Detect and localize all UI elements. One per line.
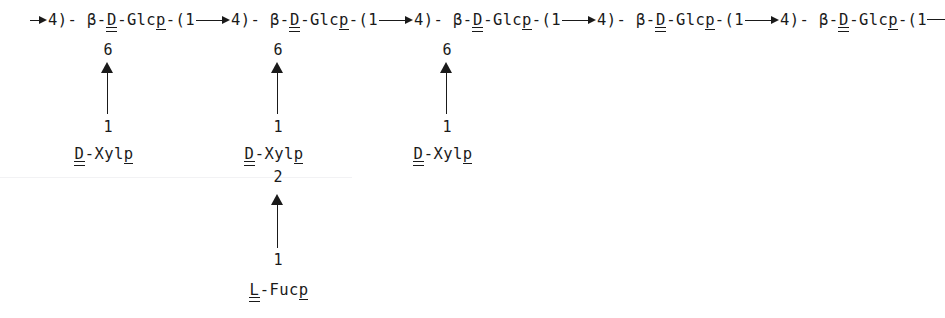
l-config-prefix: L [249,283,260,299]
ring-form-p: p [522,13,532,29]
sep: - [85,145,95,163]
branch-3-residue: D-Xylp [413,147,472,163]
ring-form-p: p [294,147,304,163]
sugar-name: Xyl [94,145,123,163]
sep: - [617,11,627,29]
d-config-prefix: D [655,13,666,29]
branch-2-sub-residue: L-Fucp [249,283,308,299]
backbone-unit-2: β-D-Glcp-(14)- [270,11,443,29]
sep: - [260,281,270,299]
d-config-prefix: D [106,13,117,29]
linkage-open: -(1 [166,11,195,29]
sugar-name: Glc [493,11,522,29]
branch-2-sub-anomeric-carbon: 1 [268,253,288,268]
backbone-unit-1: β-D-Glcp-(14)- [87,11,260,29]
d-config-prefix: D [244,147,255,163]
d-config-prefix: D [289,13,300,29]
ring-form-p: p [705,13,715,29]
branch-2-residue: D-Xylp [244,147,303,163]
chain-continuation-dash-icon [927,19,945,20]
branch-3-attach-position: 6 [437,43,457,58]
linkage-position: 4) [231,11,250,29]
linkage-position: 4) [597,11,616,29]
sugar-name: Xyl [433,145,462,163]
linkage-arrow-icon [196,16,230,25]
anomeric-config: β [87,11,97,29]
sugar-name: Glc [859,11,888,29]
sep: - [424,145,434,163]
branch-2-sub-link-arrow-icon [271,194,284,248]
anomeric-config: β [453,11,463,29]
sep: - [300,11,310,29]
sep: - [849,11,859,29]
d-config-prefix: D [74,147,85,163]
branch-1-link-arrow-icon [101,62,114,114]
ring-form-p: p [156,13,166,29]
branch-2-sub-attach-position: 2 [268,170,288,185]
sugar-name: Glc [676,11,705,29]
sep: - [434,11,444,29]
linkage-open: -(1 [349,11,378,29]
anomeric-config: β [270,11,280,29]
branch-1-residue: D-Xylp [74,147,133,163]
sep: - [280,11,290,29]
sugar-name: Glc [310,11,339,29]
sep: - [646,11,656,29]
branch-1-anomeric-carbon: 1 [98,120,118,135]
branch-2-attach-position: 6 [268,43,288,58]
ring-form-p: p [463,147,473,163]
linkage-position: 4) [414,11,433,29]
sep: - [255,145,265,163]
chain-leading-arrow-icon [30,16,47,25]
linkage-arrow-icon [562,16,596,25]
sep: - [463,11,473,29]
ring-form-p: p [888,13,898,29]
linkage-open: -(1 [898,11,927,29]
backbone-unit-5: β-D-Glcp-(1 [819,11,945,29]
d-config-prefix: D [838,13,849,29]
d-config-prefix: D [472,13,483,29]
sep: - [117,11,127,29]
backbone-unit-3: β-D-Glcp-(14)- [453,11,626,29]
branch-1-attach-position: 6 [98,43,118,58]
ring-form-p: p [124,147,134,163]
linkage-open: -(1 [532,11,561,29]
backbone-unit-4: β-D-Glcp-(14)- [636,11,809,29]
anomeric-config: β [819,11,829,29]
d-config-prefix: D [413,147,424,163]
sep: - [800,11,810,29]
linkage-open: -(1 [715,11,744,29]
scan-artifact-line [0,177,352,178]
sep: - [97,11,107,29]
sep: - [67,11,77,29]
branch-3-link-arrow-icon [440,62,453,114]
sep: - [666,11,676,29]
branch-2-anomeric-carbon: 1 [268,120,288,135]
ring-form-p: p [339,13,349,29]
sep: - [829,11,839,29]
linkage-position: 4) [780,11,799,29]
branch-2-link-arrow-icon [271,62,284,114]
sugar-name: Xyl [264,145,293,163]
linkage-arrow-icon [379,16,413,25]
sep: - [483,11,493,29]
linkage-arrow-icon [745,16,779,25]
sugar-name: Fuc [269,281,298,299]
backbone-chain: 4)- β-D-Glcp-(14)- β-D-Glcp-(14)- β-D-Gl… [30,13,945,29]
anomeric-config: β [636,11,646,29]
sugar-name: Glc [127,11,156,29]
sep: - [250,11,260,29]
branch-3-anomeric-carbon: 1 [437,120,457,135]
chain-leading-position: 4) [48,11,67,29]
ring-form-p: p [299,283,309,299]
